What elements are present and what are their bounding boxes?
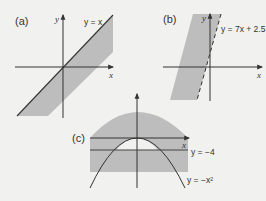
x-axis-label-b: x (256, 70, 261, 80)
equation-label-a: y = x (84, 17, 103, 27)
panel-b: (b) y x y = 7x + 2.5 (163, 13, 266, 101)
x-axis-label-c: x (181, 140, 186, 150)
shaded-region-b (170, 14, 221, 100)
panel-label-b: (b) (163, 13, 176, 25)
equation-label-c2: y = −x² (187, 175, 213, 185)
inequality-regions-figure: (a) y x y = x (b) y x y = 7x + 2.5 (c) x… (0, 0, 266, 201)
panel-a: (a) y x y = x (15, 14, 113, 118)
panel-c: (c) x y = −4 y = −x² (72, 94, 215, 188)
equation-label-b: y = 7x + 2.5 (221, 24, 266, 34)
panel-label-a: (a) (15, 15, 28, 27)
y-axis-label-b: y (201, 13, 206, 23)
panel-label-c: (c) (72, 132, 85, 144)
y-axis-label-a: y (54, 14, 59, 24)
equation-label-c1: y = −4 (191, 147, 215, 157)
x-axis-label-a: x (108, 70, 113, 80)
